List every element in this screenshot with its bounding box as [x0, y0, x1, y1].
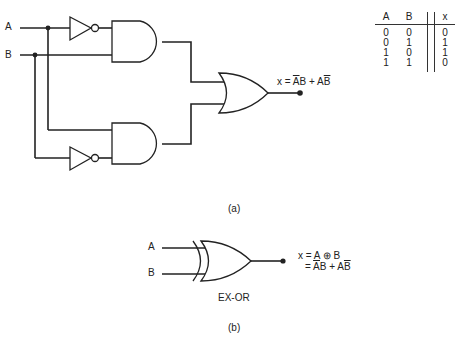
header-b: B — [397, 12, 421, 25]
table-row: 00 0 — [375, 25, 455, 39]
table-row: 11 0 — [375, 58, 455, 72]
header-a: A — [375, 12, 397, 25]
not-bubble-a — [92, 25, 99, 32]
wire-upper-and-out — [162, 42, 226, 82]
input-label-b: B — [5, 49, 12, 60]
and-gate-lower-icon — [112, 123, 156, 164]
input-label-a: A — [5, 21, 12, 32]
junction-dot-a — [46, 26, 51, 31]
xor-expression-line2: = AB + AB — [305, 261, 351, 272]
not-bubble-b — [92, 155, 99, 162]
header-x: x — [435, 12, 456, 25]
xor-gate-icon — [201, 241, 251, 281]
output-expression-a: x = AB + AB — [277, 76, 330, 87]
xor-gate-label: EX-OR — [218, 292, 250, 303]
xor-input-label-a: A — [148, 241, 155, 252]
not-gate-a-icon — [70, 17, 91, 40]
wire-lower-and-out — [162, 104, 226, 144]
caption-a: (a) — [228, 203, 240, 214]
not-gate-b-icon — [70, 147, 91, 170]
xor-output-dot — [280, 258, 285, 263]
xor-extra-arc — [193, 241, 201, 281]
xor-input-label-b: B — [148, 267, 155, 278]
caption-b: (b) — [228, 322, 240, 333]
or-gate-icon — [219, 73, 268, 113]
and-gate-upper-icon — [112, 21, 156, 62]
output-terminal-dot — [297, 90, 303, 96]
truth-table: A B x 00 0 01 1 10 1 11 0 — [375, 12, 455, 72]
junction-dot-b — [33, 53, 38, 58]
xor-expression-line1: x = A ⊕ B — [298, 250, 340, 261]
